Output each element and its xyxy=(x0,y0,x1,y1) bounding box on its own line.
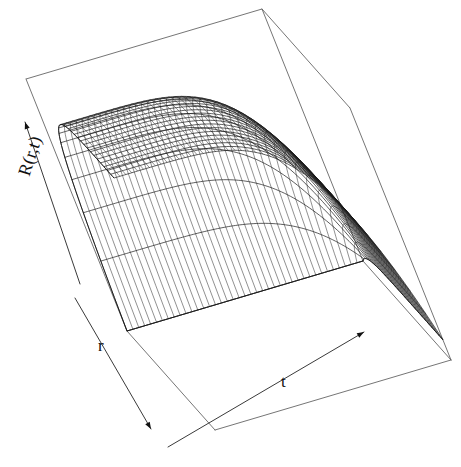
plot-canvas xyxy=(0,0,461,467)
axis-label-r: r xyxy=(98,336,104,356)
axis-label-t: t xyxy=(281,372,286,392)
surface-plot-figure: R(r,t) r t xyxy=(0,0,461,467)
